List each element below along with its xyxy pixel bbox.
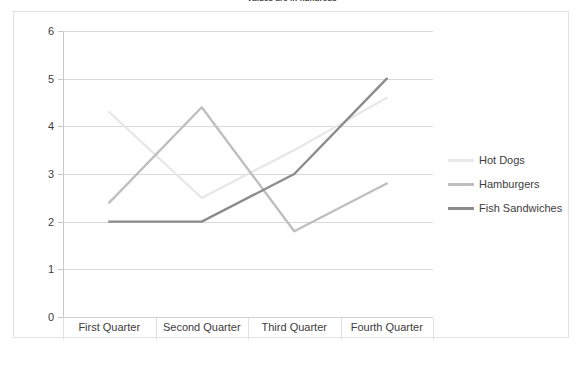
- legend-item-label: Hot Dogs: [479, 154, 525, 166]
- x-axis-tick-label: Third Quarter: [248, 321, 341, 333]
- x-axis-tick-label: Second Quarter: [156, 321, 249, 333]
- y-axis-tick-label: 0: [14, 311, 54, 323]
- y-axis-tick-label: 5: [14, 73, 54, 85]
- chart-legend: Hot DogsHamburgersFish Sandwiches: [448, 148, 568, 220]
- legend-item[interactable]: Hot Dogs: [448, 148, 568, 172]
- chart-title: Values are in hundreds: [0, 0, 584, 2]
- y-axis-tick-label: 3: [14, 168, 54, 180]
- legend-item-label: Hamburgers: [479, 178, 540, 190]
- x-axis-separator: [433, 318, 434, 340]
- series-line: [109, 98, 387, 198]
- y-axis-tick-label: 1: [14, 263, 54, 275]
- legend-item[interactable]: Fish Sandwiches: [448, 196, 568, 220]
- legend-swatch-icon: [448, 183, 474, 186]
- x-axis-tick-label: First Quarter: [63, 321, 156, 333]
- y-axis-tick-label: 4: [14, 120, 54, 132]
- legend-item-label: Fish Sandwiches: [479, 202, 562, 214]
- legend-swatch-icon: [448, 207, 474, 210]
- series-line: [109, 107, 387, 231]
- y-axis-tick-label: 6: [14, 25, 54, 37]
- y-axis-tick-label: 2: [14, 216, 54, 228]
- legend-swatch-icon: [448, 159, 474, 162]
- series-lines-group: [63, 31, 433, 318]
- x-axis-tick-label: Fourth Quarter: [341, 321, 434, 333]
- legend-item[interactable]: Hamburgers: [448, 172, 568, 196]
- line-chart: Values are in hundreds 6543210 First Qua…: [0, 0, 584, 366]
